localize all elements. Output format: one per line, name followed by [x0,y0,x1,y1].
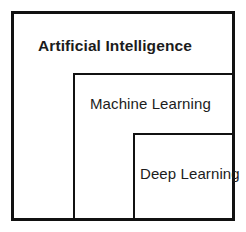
nested-set-diagram: Artificial Intelligence Machine Learning… [0,0,246,232]
label-deep-learning: Deep Learning [140,166,240,181]
label-machine-learning: Machine Learning [90,96,211,111]
label-artificial-intelligence: Artificial Intelligence [38,38,192,54]
